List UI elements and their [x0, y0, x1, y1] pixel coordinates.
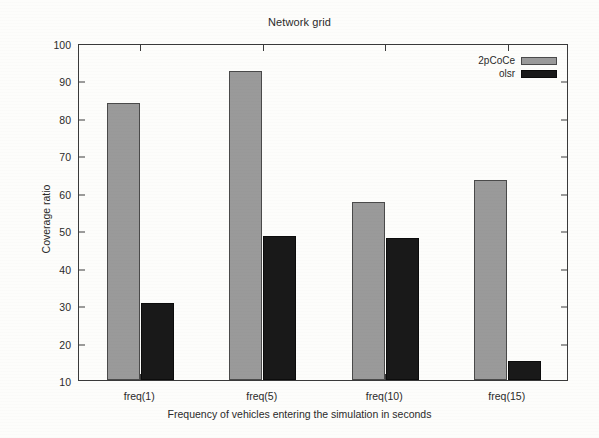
- legend-label: olsr: [499, 68, 515, 79]
- chart-legend: 2pCoCeolsr: [478, 54, 557, 80]
- y-axis-tick-mark: [79, 269, 85, 270]
- y-axis-tick-mark-right: [561, 194, 567, 195]
- legend-entry-2pcoce: 2pCoCe: [478, 54, 557, 67]
- x-axis-tick-label: freq(15): [488, 390, 525, 402]
- y-axis-tick-mark: [79, 119, 85, 120]
- legend-label: 2pCoCe: [478, 55, 515, 66]
- y-axis-tick-mark-right: [561, 344, 567, 345]
- y-axis-tick-mark-right: [561, 232, 567, 233]
- x-axis-tick-label: freq(5): [246, 390, 277, 402]
- x-axis-tick-label: freq(10): [366, 390, 403, 402]
- plot-inner: [79, 45, 567, 380]
- y-axis-tick-mark-right: [561, 82, 567, 83]
- bar-olsr-freq1: [141, 303, 174, 380]
- bar-olsr-freq5: [263, 236, 296, 380]
- x-axis-tick-label: freq(1): [124, 390, 155, 402]
- y-axis-tick-label: 100: [37, 39, 71, 51]
- x-axis-tick-mark-top: [263, 45, 264, 51]
- y-axis-tick-label: 90: [37, 76, 71, 88]
- bar-2pcoce-freq15: [474, 180, 507, 380]
- y-axis-tick-mark-right: [561, 157, 567, 158]
- bar-2pcoce-freq1: [107, 103, 140, 380]
- chart-title: Network grid: [0, 16, 599, 28]
- y-axis-tick-mark: [79, 344, 85, 345]
- y-axis-tick-mark: [79, 194, 85, 195]
- legend-swatch-icon: [521, 57, 557, 65]
- y-axis-tick-label: 10: [37, 376, 71, 388]
- bar-2pcoce-freq10: [352, 202, 385, 380]
- legend-entry-olsr: olsr: [478, 67, 557, 80]
- y-axis-tick-mark: [79, 307, 85, 308]
- y-axis-tick-label: 80: [37, 114, 71, 126]
- bar-olsr-freq10: [386, 238, 419, 380]
- bar-2pcoce-freq5: [229, 71, 262, 380]
- y-axis-tick-mark: [79, 232, 85, 233]
- y-axis-tick-mark: [79, 157, 85, 158]
- legend-swatch-icon: [521, 70, 557, 78]
- y-axis-tick-label: 20: [37, 339, 71, 351]
- y-axis-tick-label: 40: [37, 264, 71, 276]
- y-axis-tick-mark-right: [561, 307, 567, 308]
- y-axis-tick-label: 50: [37, 226, 71, 238]
- y-axis-tick-mark-right: [561, 119, 567, 120]
- y-axis-tick-mark: [79, 82, 85, 83]
- y-axis-tick-label: 70: [37, 151, 71, 163]
- plot-area: 2pCoCeolsr 102030405060708090100: [78, 44, 568, 381]
- x-axis-tick-mark-top: [385, 45, 386, 51]
- y-axis-tick-label: 60: [37, 189, 71, 201]
- y-axis-tick-mark-right: [561, 269, 567, 270]
- y-axis-tick-label: 30: [37, 301, 71, 313]
- bar-olsr-freq15: [508, 361, 541, 380]
- x-axis-tick-mark-top: [508, 45, 509, 51]
- x-axis-tick-mark-top: [140, 45, 141, 51]
- chart-figure: Network grid Coverage ratio 2pCoCeolsr 1…: [0, 0, 599, 438]
- x-axis-title: Frequency of vehicles entering the simul…: [0, 408, 599, 420]
